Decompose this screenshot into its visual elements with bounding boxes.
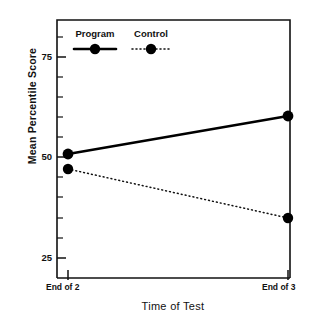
series-control xyxy=(63,164,293,223)
legend-entry-program: Program xyxy=(66,28,124,58)
series-control-point-end-of-2 xyxy=(63,164,73,174)
series-program-point-end-of-2 xyxy=(63,149,74,160)
series-program-point-end-of-3 xyxy=(283,111,294,122)
legend-label-control: Control xyxy=(122,28,180,39)
series-program xyxy=(63,111,294,160)
legend-sample-control xyxy=(122,43,180,55)
series-program-line xyxy=(68,116,288,154)
y-axis-minor-ticks xyxy=(57,37,63,238)
legend-marker-program xyxy=(90,44,100,54)
series-control-line xyxy=(68,169,288,218)
legend-entry-control: Control xyxy=(122,28,180,58)
series-control-point-end-of-3 xyxy=(283,213,293,223)
chart-legend: Program Control xyxy=(66,28,182,58)
legend-label-program: Program xyxy=(66,28,124,39)
legend-marker-control xyxy=(146,44,156,54)
legend-sample-program xyxy=(66,43,124,55)
figure-canvas: Mean Percentile Score 75 50 25 End of 2 … xyxy=(0,0,319,323)
